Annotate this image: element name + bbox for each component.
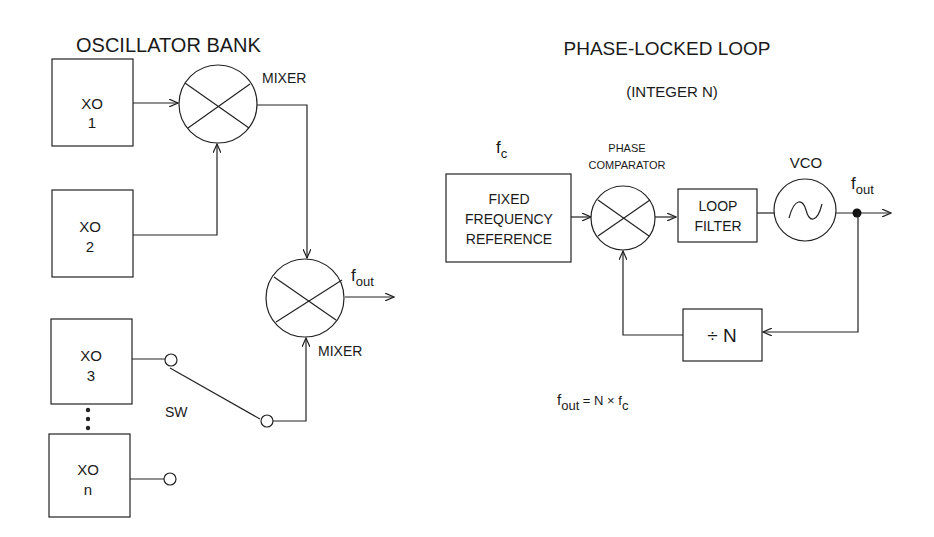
svg-text:LOOP: LOOP (699, 198, 738, 214)
divide-by-n-block: ÷ N (683, 309, 762, 361)
phase-comparator-label-line2: COMPARATOR (588, 159, 665, 171)
mixer-1-label: MIXER (262, 70, 306, 86)
xo-n-index: n (84, 481, 92, 498)
svg-text:FILTER: FILTER (694, 218, 741, 234)
vco-label: VCO (790, 154, 823, 171)
switch-label: SW (165, 404, 188, 420)
svg-text:÷ N: ÷ N (707, 325, 736, 346)
xo-2-block: XO 2 (52, 190, 133, 277)
switch-contact-xon (164, 473, 176, 485)
output-junction-dot (853, 209, 862, 218)
divider-to-comparator-wire (623, 251, 683, 335)
switch-common-contact (261, 415, 273, 427)
xo-1-block: XO 1 (52, 59, 133, 146)
pll-equation: fout = N × fc (557, 391, 629, 413)
xo-3-index: 3 (87, 367, 95, 384)
mixer-1-symbol (179, 65, 257, 143)
oscillator-bank-output-label: fout (351, 266, 374, 289)
svg-text:FIXED: FIXED (488, 191, 529, 207)
vco-symbol (774, 179, 836, 241)
ellipsis-dots (86, 408, 90, 430)
phase-comparator-symbol (591, 186, 655, 250)
svg-text:FREQUENCY: FREQUENCY (465, 211, 554, 227)
phase-comparator-label-line1: PHASE (608, 142, 645, 154)
diagram-canvas: OSCILLATOR BANK XO 1 XO 2 XO 3 XO n MIXE… (0, 0, 934, 537)
xo-3-block: XO 3 (51, 319, 132, 404)
xo-2-index: 2 (86, 238, 94, 255)
xo-3-label: XO (80, 347, 102, 364)
xo-1-label: XO (81, 95, 103, 112)
mixer1-to-mixer2-wire (257, 105, 307, 258)
pll-output-label: fout (851, 174, 874, 197)
pll-title: PHASE-LOCKED LOOP (564, 38, 771, 59)
xo-1-index: 1 (88, 114, 96, 131)
pll-subtitle: (INTEGER N) (626, 83, 718, 100)
reference-frequency-label: fc (496, 138, 508, 161)
xo2-to-mixer1-wire (133, 144, 217, 235)
mixer-2-symbol (266, 259, 344, 337)
xo-n-label: XO (77, 461, 99, 478)
loop-filter-block: LOOP FILTER (678, 189, 757, 242)
xo-n-block: XO n (49, 434, 130, 517)
xo-2-label: XO (79, 218, 101, 235)
fixed-frequency-reference-block: FIXED FREQUENCY REFERENCE (446, 174, 571, 262)
oscillator-bank-title: OSCILLATOR BANK (76, 34, 262, 56)
mixer-2-label: MIXER (318, 343, 362, 359)
switch-to-mixer2-wire (273, 338, 306, 421)
svg-text:REFERENCE: REFERENCE (466, 231, 552, 247)
switch-contact-xo3 (165, 354, 177, 366)
